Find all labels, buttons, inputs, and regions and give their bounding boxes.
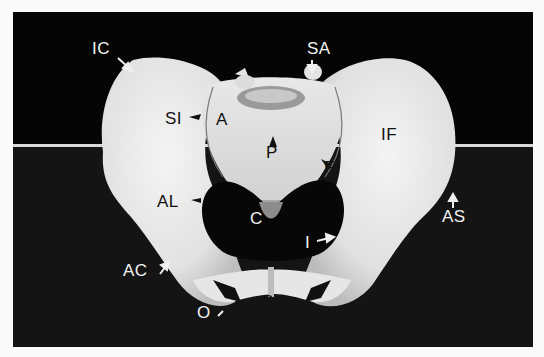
label-P: P — [266, 144, 278, 161]
label-AC: AC — [123, 262, 148, 279]
pelvis-photograph: IC SA SI A IF P F AL C AS I AC S O — [13, 12, 533, 347]
label-A: A — [216, 111, 228, 128]
label-AS: AS — [442, 208, 466, 225]
label-SI: SI — [165, 110, 182, 127]
label-C: C — [250, 210, 263, 227]
label-AL: AL — [157, 193, 179, 210]
label-S: S — [262, 293, 274, 310]
label-O: O — [197, 304, 211, 321]
label-I: I — [305, 234, 310, 251]
label-F: F — [324, 159, 335, 176]
label-IF: IF — [381, 126, 397, 143]
label-SA: SA — [307, 40, 331, 57]
label-IC: IC — [92, 40, 110, 57]
